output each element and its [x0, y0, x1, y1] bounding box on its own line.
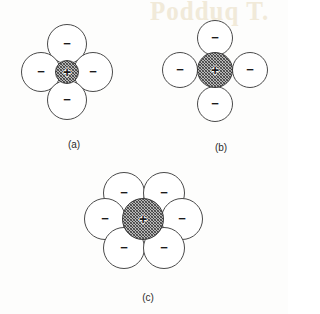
panel-a-anion-bottom-circle: −: [47, 80, 87, 120]
anion-minus-sign-icon: −: [176, 63, 184, 76]
anion-minus-sign-icon: −: [211, 97, 219, 110]
anion-minus-sign-icon: −: [37, 65, 45, 78]
anion-minus-sign-icon: −: [160, 241, 168, 254]
panel-b-caption: (b): [211, 142, 231, 153]
panel-a-cation-circle: +: [55, 60, 79, 84]
panel-b-anion-left-circle: −: [162, 52, 198, 88]
panel-b-cation-circle: +: [197, 52, 233, 88]
panel-b-anion-right-circle: −: [232, 52, 268, 88]
panel-c-caption: (c): [138, 292, 158, 303]
panel-b-anion-bottom-circle: −: [197, 86, 233, 122]
anion-minus-sign-icon: −: [246, 63, 254, 76]
anion-minus-sign-icon: −: [178, 212, 186, 225]
anion-minus-sign-icon: −: [120, 186, 128, 199]
panel-c-cation-circle: +: [122, 198, 164, 240]
anion-minus-sign-icon: −: [211, 31, 219, 44]
anion-minus-sign-icon: −: [120, 241, 128, 254]
anion-minus-sign-icon: −: [63, 37, 71, 50]
anion-minus-sign-icon: −: [101, 212, 109, 225]
anion-minus-sign-icon: −: [160, 186, 168, 199]
cation-plus-sign-icon: +: [63, 65, 71, 79]
panel-a-caption: (a): [64, 139, 84, 150]
cation-plus-sign-icon: +: [211, 63, 219, 77]
panel-b-anion-top-circle: −: [197, 20, 233, 56]
anion-minus-sign-icon: −: [63, 93, 71, 106]
cation-plus-sign-icon: +: [139, 212, 147, 226]
anion-minus-sign-icon: −: [89, 65, 97, 78]
